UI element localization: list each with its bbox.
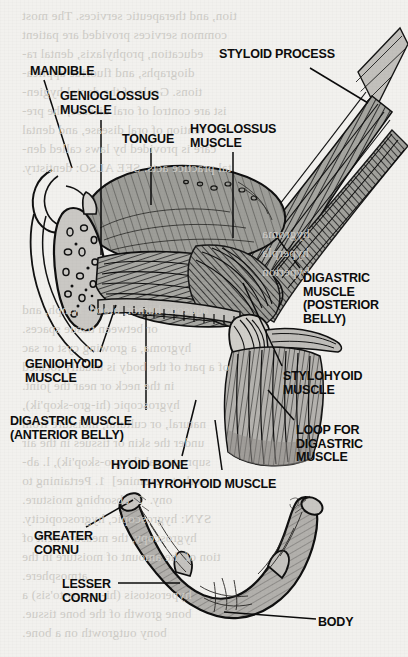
label-styloid-process: STYLOID PROCESS — [219, 48, 335, 62]
label-lesser-cornu: LESSER CORNU — [62, 578, 111, 605]
label-digastric-posterior: DIGASTRIC MUSCLE (POSTERIOR BELLY) — [303, 272, 379, 326]
label-geniohyoid: GENIOHYOID MUSCLE — [25, 358, 103, 385]
hyoid-bone-specimen — [118, 490, 326, 618]
label-genioglossus: GENIOGLOSSUS MUSCLE — [60, 90, 159, 117]
tongue-body — [85, 166, 285, 264]
label-tongue: TONGUE — [122, 133, 174, 147]
styloid-process-group — [356, 28, 408, 108]
label-loop-digastric: LOOP FOR DIGASTRIC MUSCLE — [296, 424, 363, 465]
label-mandible: MANDIBLE — [30, 65, 94, 79]
label-stylohyoid: STYLOHYOID MUSCLE — [283, 370, 362, 397]
label-thyrohyoid: THYROHYOID MUSCLE — [140, 478, 276, 492]
label-body: BODY — [318, 616, 353, 630]
label-greater-cornu: GREATER CORNU — [34, 530, 93, 557]
label-hyoid-bone: HYOID BONE — [111, 459, 188, 473]
label-hyoglossus: HYOGLOSSUS MUSCLE — [190, 123, 276, 150]
hyoid-bone-leader — [182, 400, 196, 456]
thyrohyoid-leader — [215, 420, 222, 470]
label-digastric-anterior: DIGASTRIC MUSCLE (ANTERIOR BELLY) — [10, 415, 132, 442]
